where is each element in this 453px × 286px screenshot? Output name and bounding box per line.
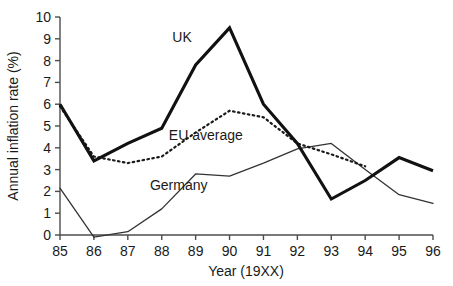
x-tick-label: 86 (86, 243, 102, 259)
x-tick-label: 88 (154, 243, 170, 259)
y-tick-label: 8 (43, 53, 51, 69)
y-tick-label: 4 (43, 140, 51, 156)
x-tick-label: 96 (425, 243, 441, 259)
y-axis-ticks (55, 17, 60, 235)
y-axis-tick-labels: 012345678910 (35, 9, 51, 243)
y-tick-label: 1 (43, 205, 51, 221)
series-annotation-germany: Germany (150, 177, 208, 193)
x-tick-label: 85 (52, 243, 68, 259)
x-tick-label: 89 (188, 243, 204, 259)
y-tick-label: 9 (43, 31, 51, 47)
series-annotation-uk: UK (172, 29, 192, 45)
inflation-line-chart: 012345678910 Annual inflation rate (%) 8… (0, 0, 453, 286)
x-axis-ticks (60, 235, 433, 240)
y-tick-label: 2 (43, 183, 51, 199)
y-axis: 012345678910 Annual inflation rate (%) (5, 9, 60, 243)
x-tick-label: 93 (323, 243, 339, 259)
y-tick-label: 10 (35, 9, 51, 25)
series-annotation-eu-average: EU average (169, 127, 243, 143)
y-tick-label: 5 (43, 118, 51, 134)
x-tick-label: 94 (357, 243, 373, 259)
x-tick-label: 92 (290, 243, 306, 259)
x-axis: 858687888990919293949596 Year (19XX) (52, 235, 441, 279)
x-tick-label: 95 (391, 243, 407, 259)
x-tick-label: 87 (120, 243, 136, 259)
x-tick-label: 91 (256, 243, 272, 259)
x-axis-tick-labels: 858687888990919293949596 (52, 243, 441, 259)
y-tick-label: 6 (43, 96, 51, 112)
y-tick-label: 7 (43, 74, 51, 90)
chart-canvas: 012345678910 Annual inflation rate (%) 8… (0, 0, 453, 286)
x-axis-title: Year (19XX) (208, 263, 284, 279)
y-axis-title: Annual inflation rate (%) (5, 51, 21, 200)
series-line-uk (60, 28, 433, 199)
series-line-germany (60, 143, 433, 237)
data-series-group (60, 28, 433, 237)
y-tick-label: 0 (43, 227, 51, 243)
x-tick-label: 90 (222, 243, 238, 259)
y-tick-label: 3 (43, 162, 51, 178)
